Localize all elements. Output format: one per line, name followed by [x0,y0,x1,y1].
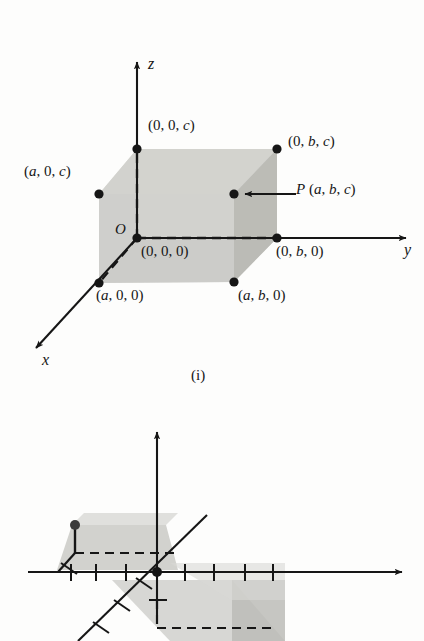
origin-dot [152,567,162,577]
vertex-dot-origin [132,233,141,242]
axis-label-z: z [148,56,154,72]
vertex-label-origin: (0, 0, 0) [141,244,189,259]
axis-label-x: x [42,352,49,368]
vertex-dot-0b0 [272,233,281,242]
x-axis-tick-3 [93,622,109,633]
origin-label: O [115,222,126,237]
vertex-dot-ab0 [229,277,238,286]
x-axis-tick-2 [114,600,130,611]
vertex-label-P: P (a, b, c) [296,182,356,197]
vertex-dot-P [229,189,238,198]
vertex-label-a0c: (a, 0, c) [24,164,71,179]
figure-two-canvas [0,400,424,641]
figure-sheet: z y x O (0, 0, c) (a, 0, c) (0, b, c) P … [0,0,424,641]
point-A-dot [70,520,80,530]
axis-label-y: y [404,242,411,258]
figure-two: z y O A (-1, -3, 1) [0,400,424,641]
vertex-dot-0bc [272,144,281,153]
vertex-label-0bc: (0, b, c) [288,134,335,149]
figure-one-caption: (i) [191,368,205,383]
vertex-label-ab0: (a, b, 0) [238,288,286,303]
vertex-label-z-cap: (0, 0, c) [148,118,195,133]
vertex-dot-a0c [94,189,103,198]
vertex-label-0b0: (0, b, 0) [276,244,324,259]
figure-one: z y x O (0, 0, c) (a, 0, c) (0, b, c) P … [0,0,424,400]
shaded-region-upper-left-back [72,513,178,525]
vertex-dot-z-cap [132,144,141,153]
vertex-label-a00: (a, 0, 0) [96,288,144,303]
figure-one-canvas [0,0,424,400]
